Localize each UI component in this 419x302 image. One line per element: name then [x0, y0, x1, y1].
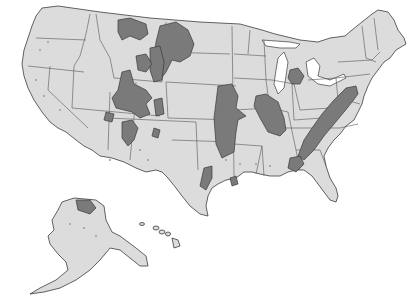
uinta-region	[104, 112, 114, 122]
conterminous-us-landmass	[22, 6, 406, 216]
us-map	[0, 0, 419, 302]
colorado-west-region	[154, 98, 164, 116]
hawaii-inset	[140, 223, 181, 249]
